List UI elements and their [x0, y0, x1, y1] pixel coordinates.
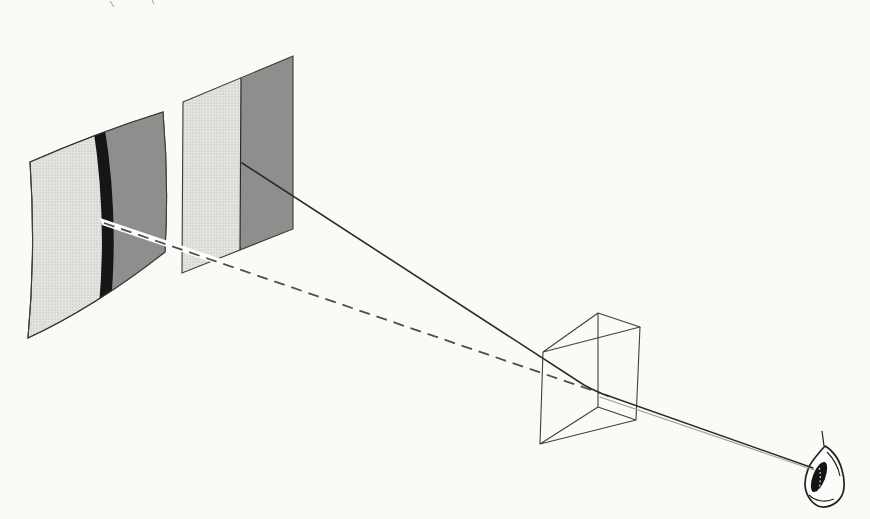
- spectroscope-diagram-figure: [0, 0, 870, 519]
- flat-screen-dark-region: [240, 56, 293, 250]
- optics-diagram-canvas: [0, 0, 870, 519]
- flat-screen-light-region: [182, 78, 241, 273]
